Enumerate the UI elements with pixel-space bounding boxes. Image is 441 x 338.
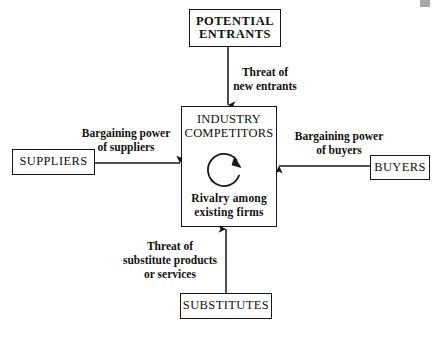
rivalry-circular-arrow-icon [206, 153, 252, 195]
box-rivalry-line1: Rivalry among [182, 192, 276, 206]
box-industry-competitors-line2: COMPETITORS [185, 127, 274, 141]
box-industry-competitors-line1: INDUSTRY [197, 113, 261, 127]
box-industry-competitors[interactable]: INDUSTRY COMPETITORS Rivalry among exist… [181, 106, 277, 227]
box-potential-entrants[interactable]: POTENTIAL ENTRANTS [189, 9, 281, 47]
box-substitutes[interactable]: SUBSTITUTES [180, 293, 272, 319]
box-potential-entrants-line2: ENTRANTS [199, 28, 271, 42]
diagram-canvas: POTENTIAL ENTRANTS INDUSTRY COMPETITORS … [0, 0, 441, 338]
box-potential-entrants-line1: POTENTIAL [196, 15, 274, 29]
box-substitutes-label: SUBSTITUTES [183, 299, 269, 313]
box-buyers[interactable]: BUYERS [370, 155, 430, 180]
box-rivalry-caption: Rivalry among existing firms [182, 192, 276, 220]
scan-artifact-mark [420, 0, 430, 7]
box-suppliers-label: SUPPLIERS [19, 155, 87, 169]
box-buyers-label: BUYERS [374, 161, 426, 175]
label-threat-of-substitutes: Threat of substitute products or service… [116, 239, 224, 281]
label-bargaining-power-of-buyers: Bargaining power of buyers [283, 129, 395, 157]
box-rivalry-line2: existing firms [182, 206, 276, 220]
label-threat-of-new-entrants: Threat of new entrants [213, 65, 317, 93]
label-bargaining-power-of-suppliers: Bargaining power of suppliers [72, 126, 180, 154]
